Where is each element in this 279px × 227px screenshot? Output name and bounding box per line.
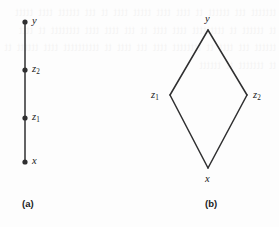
node-label-figure-a-z2: z2 — [32, 64, 40, 75]
edge-z2-x — [208, 95, 247, 168]
node-label-figure-a-x: x — [32, 156, 37, 167]
figure-a-group — [22, 19, 27, 164]
node-label-subscript: 1 — [155, 94, 159, 102]
edge-y-z1 — [170, 30, 208, 95]
node-label-subscript: 2 — [36, 68, 40, 76]
node-label-figure-b-x: x — [205, 174, 210, 185]
node-label-subscript: 1 — [36, 116, 40, 124]
node-dot-x — [22, 159, 27, 164]
node-label-figure-a-z1: z1 — [32, 112, 40, 123]
node-label-figure-a-y: y — [32, 16, 37, 27]
figure-page: ttttttt ttt tttttt tt tttt tttt ttttt tt… — [0, 0, 279, 227]
node-label-subscript: 2 — [257, 94, 261, 102]
caption-figure-b: (b) — [205, 199, 217, 209]
lattice-diagrams-canvas — [0, 0, 279, 227]
node-label-figure-b-y: y — [205, 14, 210, 25]
figure-b-group — [170, 30, 247, 168]
caption-figure-a: (a) — [22, 199, 34, 209]
edge-z1-x — [170, 95, 208, 168]
node-dot-y — [22, 19, 27, 24]
node-label-figure-b-z1: z1 — [151, 90, 159, 101]
node-dot-z1 — [22, 115, 27, 120]
node-dot-z2 — [22, 67, 27, 72]
edge-y-z2 — [208, 30, 247, 95]
node-label-figure-b-z2: z2 — [253, 90, 261, 101]
